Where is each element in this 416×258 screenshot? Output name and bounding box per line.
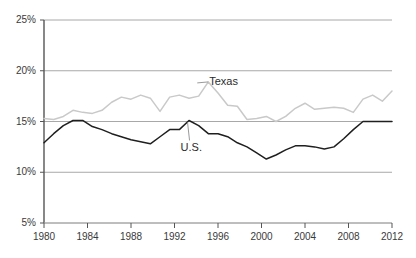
us-leader-line: [188, 122, 190, 140]
y-tick-label: 15%: [2, 117, 36, 127]
x-tick-label: 2008: [329, 232, 369, 242]
x-tick-label: 2004: [285, 232, 325, 242]
x-axis-ticks: [44, 223, 392, 228]
gridlines: [44, 20, 392, 223]
y-tick-label: 5%: [2, 218, 36, 228]
series-label-texas: Texas: [209, 76, 238, 87]
series-label-us: U.S.: [181, 142, 202, 153]
x-tick-label: 1980: [24, 232, 64, 242]
series-line-us: [44, 120, 392, 159]
x-tick-label: 2012: [372, 232, 412, 242]
y-tick-label: 10%: [2, 167, 36, 177]
series-line-texas: [44, 82, 392, 122]
x-tick-label: 1992: [155, 232, 195, 242]
y-tick-label: 20%: [2, 66, 36, 76]
plot-area: [0, 0, 416, 258]
y-tick-label: 25%: [2, 15, 36, 25]
line-chart: 25%20%15%10%5% 1980198419881992199620002…: [0, 0, 416, 258]
x-tick-label: 1984: [68, 232, 108, 242]
texas-leader-line: [197, 82, 208, 83]
series-lines: [44, 82, 392, 159]
x-tick-label: 1996: [198, 232, 238, 242]
x-tick-label: 1988: [111, 232, 151, 242]
x-tick-label: 2000: [242, 232, 282, 242]
